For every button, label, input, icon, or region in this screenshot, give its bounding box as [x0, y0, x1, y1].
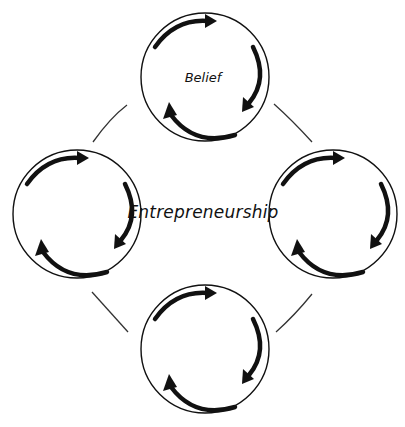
- node-label-belief: Belief: [185, 70, 222, 85]
- cycle-node-right: [269, 150, 397, 278]
- connector-right-bottom: [276, 294, 312, 332]
- cycle-node-left: [13, 150, 141, 278]
- cycle-node-bottom: [141, 285, 269, 413]
- center-label: Entrepreneurship: [127, 202, 278, 222]
- connector-left-bottom: [92, 292, 128, 332]
- connector-top-right: [274, 104, 312, 142]
- connector-top-left: [93, 105, 127, 142]
